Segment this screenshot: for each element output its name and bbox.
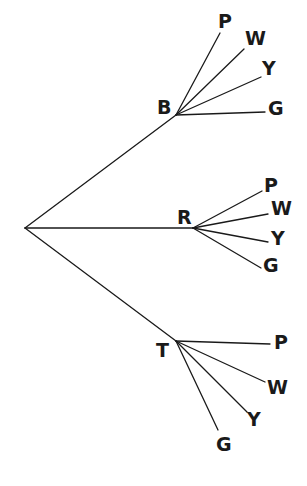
tree-edges [25,33,270,430]
edge-t-y [176,341,247,412]
tree-diagram: BPWYGRPWYGTPWYG [0,0,307,486]
edge-t-g [176,341,218,430]
leaf-label-r-g: G [263,254,279,276]
edge-r-w [193,214,268,228]
edge-b-g [176,112,265,115]
edge-r-p [193,191,262,228]
leaf-label-b-p: P [218,10,232,32]
edge-b-p [176,33,220,115]
edge-t-w [176,341,265,382]
node-label-b: B [157,96,171,118]
leaf-label-t-y: Y [246,408,261,430]
leaf-label-t-w: W [267,376,288,398]
leaf-label-r-p: P [264,174,278,196]
edge-b-w [176,49,244,115]
leaf-label-b-w: W [245,27,266,49]
leaf-label-r-y: Y [270,227,285,249]
node-label-r: R [177,206,192,228]
leaf-label-t-p: P [274,331,288,353]
edge-b-y [176,77,261,115]
node-label-t: T [156,339,169,361]
edge-t-p [176,341,270,344]
leaf-label-b-y: Y [261,57,276,79]
edge-root-t [25,228,176,341]
leaf-label-t-g: G [216,433,232,455]
edge-root-b [25,115,176,228]
leaf-label-r-w: W [271,197,292,219]
leaf-label-b-g: G [268,97,284,119]
